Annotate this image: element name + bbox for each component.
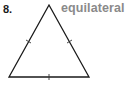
equilateral-triangle — [9, 5, 89, 77]
triangle-diagram — [0, 0, 128, 107]
